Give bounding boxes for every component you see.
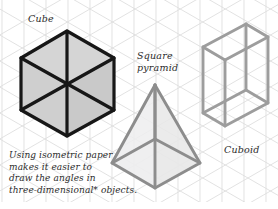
isometric-paper-illustration: Cube Square pyramid Cuboid Using isometr… — [0, 0, 278, 209]
caption-line-3: draw the angles in — [9, 173, 137, 185]
caption-line-4: three-dimensional* objects. — [9, 185, 137, 197]
label-square-pyramid-line2: pyramid — [137, 62, 197, 74]
caption-text: Using isometric paper makes it easier to… — [9, 150, 137, 196]
figure-cuboid — [203, 24, 268, 126]
label-square-pyramid: Square pyramid — [137, 50, 197, 73]
bottom-white-strip — [0, 202, 278, 209]
caption-line-1: Using isometric paper — [9, 150, 137, 162]
figure-cube — [21, 31, 114, 136]
caption-line-2: makes it easier to — [9, 162, 137, 174]
label-cuboid: Cuboid — [224, 144, 260, 155]
label-cube: Cube — [28, 13, 54, 24]
label-square-pyramid-line1: Square — [137, 50, 197, 62]
